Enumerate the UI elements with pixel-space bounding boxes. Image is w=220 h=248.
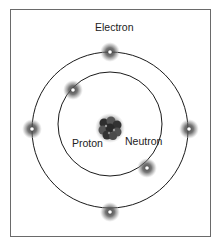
- proton-label: Proton: [72, 137, 103, 149]
- atom-diagram: [0, 0, 220, 248]
- electron: [22, 119, 42, 139]
- electron: [100, 202, 120, 222]
- neutron-label: Neutron: [125, 135, 162, 147]
- electron: [137, 158, 157, 178]
- electron: [63, 80, 83, 100]
- electron: [100, 42, 120, 62]
- electron: [179, 119, 199, 139]
- electron-label: Electron: [95, 21, 134, 33]
